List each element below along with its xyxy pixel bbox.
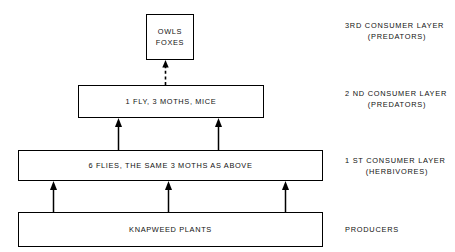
box-consumer-1-line-1: 6 FLIES, THE SAME 3 MOTHS AS ABOVE [88, 160, 252, 171]
arrow-consumer1-to-consumer2-left [114, 118, 123, 150]
caption-layer-3-line-1: 3RD CONSUMER LAYER [345, 20, 449, 31]
caption-producers-layer: PRODUCERS [345, 224, 449, 235]
caption-layer-2-line-2: (PREDATORS) [345, 99, 449, 110]
box-consumer-2-line-1: 1 FLY, 3 MOTHS, MICE [126, 96, 217, 107]
diagram-canvas: OWLS FOXES 1 FLY, 3 MOTHS, MICE 6 FLIES,… [0, 0, 455, 252]
arrow-dashed-consumer2-to-predators [162, 60, 169, 86]
box-predators-top-line-2: FOXES [156, 37, 184, 48]
arrow-producers-to-consumer1-left [49, 181, 58, 212]
caption-layer-1-line-1: 1 ST CONSUMER LAYER [345, 155, 449, 166]
arrow-producers-to-consumer1-center [164, 181, 173, 212]
caption-third-consumer-layer: 3RD CONSUMER LAYER (PREDATORS) [345, 20, 449, 42]
box-producers: KNAPWEED PLANTS [18, 212, 323, 247]
caption-producers-line-1: PRODUCERS [345, 224, 449, 235]
arrow-consumer1-to-consumer2-right [214, 118, 223, 150]
arrow-producers-to-consumer1-right [281, 181, 290, 212]
caption-layer-3-line-2: (PREDATORS) [345, 31, 449, 42]
box-predators-top-line-1: OWLS [158, 26, 182, 37]
box-second-consumer-layer: 1 FLY, 3 MOTHS, MICE [78, 85, 264, 118]
caption-first-consumer-layer: 1 ST CONSUMER LAYER (HERBIVORES) [345, 155, 449, 177]
box-first-consumer-layer: 6 FLIES, THE SAME 3 MOTHS AS ABOVE [18, 150, 323, 181]
box-third-consumer-layer: OWLS FOXES [146, 14, 194, 60]
box-producers-line-1: KNAPWEED PLANTS [129, 224, 212, 235]
caption-second-consumer-layer: 2 ND CONSUMER LAYER (PREDATORS) [345, 88, 449, 110]
caption-layer-2-line-1: 2 ND CONSUMER LAYER [345, 88, 449, 99]
caption-layer-1-line-2: (HERBIVORES) [345, 166, 449, 177]
